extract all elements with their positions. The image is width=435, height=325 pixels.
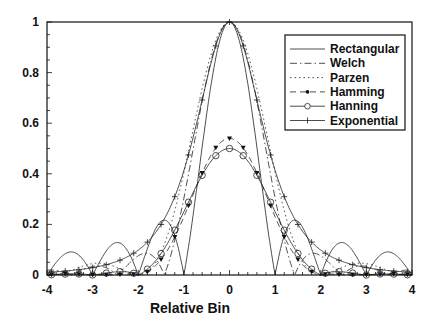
y-tick-label: 0.8 bbox=[22, 66, 39, 80]
y-tick-label: 0 bbox=[32, 268, 39, 282]
x-tick-label: 0 bbox=[226, 283, 233, 297]
x-axis-label: Relative Bin bbox=[150, 300, 230, 316]
y-tick-label: 0.4 bbox=[22, 167, 39, 181]
legend-item-welch: Welch bbox=[330, 56, 365, 70]
y-tick-label: 0.2 bbox=[22, 217, 39, 231]
series-hanning-line bbox=[47, 149, 412, 276]
legend-item-rectangular: Rectangular bbox=[330, 42, 400, 56]
x-tick-label: 2 bbox=[317, 283, 324, 297]
legend-item-hamming: Hamming bbox=[330, 85, 385, 99]
x-tick-label: -3 bbox=[87, 283, 98, 297]
series-hamming-line bbox=[47, 138, 412, 275]
legend: RectangularWelchParzenHammingHanningExpo… bbox=[285, 35, 405, 130]
y-tick-label: 0.6 bbox=[22, 116, 39, 130]
x-tick-label: 4 bbox=[409, 283, 416, 297]
x-tick-label: -1 bbox=[179, 283, 190, 297]
y-tick-label: 1 bbox=[32, 15, 39, 29]
x-tick-label: -4 bbox=[42, 283, 53, 297]
x-tick-label: -2 bbox=[133, 283, 144, 297]
legend-item-exponential: Exponential bbox=[330, 114, 398, 128]
chart: 00.20.40.60.81 -4-3-2-101234 Relative Bi… bbox=[0, 0, 435, 325]
x-tick-label: 1 bbox=[272, 283, 279, 297]
legend-item-parzen: Parzen bbox=[330, 71, 369, 85]
legend-item-hanning: Hanning bbox=[330, 99, 378, 113]
x-tick-label: 3 bbox=[363, 283, 370, 297]
